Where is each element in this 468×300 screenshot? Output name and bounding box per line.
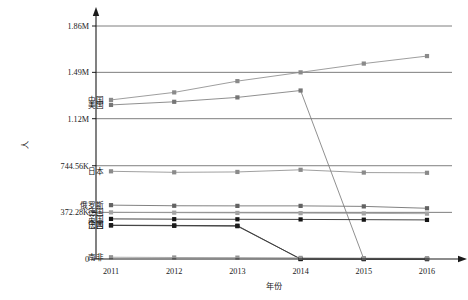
data-point [425,206,429,210]
y-tick-label: 744.56K [61,162,90,171]
data-point [109,169,113,173]
data-point [172,224,176,228]
series-line-6 [111,225,427,259]
data-point [109,210,113,214]
series-line-8 [111,257,427,258]
data-point [299,88,303,92]
data-point [235,211,239,215]
data-point [299,211,303,215]
data-point [235,95,239,99]
series-line-0 [111,56,427,100]
series-line-2 [111,170,427,173]
data-point [109,103,113,107]
data-point [299,217,303,221]
line-chart: 1.86M1.49M1.12M744.56K372.28K0 201120122… [0,0,468,300]
data-point [362,218,366,222]
data-point [109,223,113,227]
data-point [299,70,303,74]
data-point [425,171,429,175]
data-point [425,54,429,58]
data-point [425,256,429,260]
series-line-1 [111,91,427,259]
x-tick-label: 2013 [229,267,245,276]
data-series [109,54,429,261]
chart-canvas: 1.86M1.49M1.12M744.56K372.28K0 201120122… [0,0,468,300]
data-point [299,204,303,208]
x-tick-label: 2011 [103,267,119,276]
data-point [235,170,239,174]
data-point [172,100,176,104]
series-line-5 [111,219,427,220]
series-line-3 [111,205,427,208]
data-point [172,211,176,215]
x-tick-label: 2012 [166,267,182,276]
gridlines [96,26,452,212]
data-point [172,217,176,221]
data-point [235,204,239,208]
series-line-7 [111,225,427,259]
data-point [362,211,366,215]
y-axis-arrow [93,7,99,16]
x-tick-label: 2015 [356,267,372,276]
data-point [299,168,303,172]
data-point [172,170,176,174]
x-axis-arrow [458,256,467,262]
data-point [425,218,429,222]
y-tick-label: 1.86M [67,22,89,31]
data-point [425,212,429,216]
data-point [235,217,239,221]
data-point [235,79,239,83]
data-point [109,203,113,207]
data-point [109,217,113,221]
y-axis-title: 人 [21,141,30,149]
x-tick-label: 2014 [292,267,308,276]
axes [93,7,467,262]
x-axis-title: 年份 [266,281,282,291]
y-tick-label: 1.12M [67,115,89,124]
data-point [362,61,366,65]
data-point [362,170,366,174]
data-point [172,204,176,208]
data-point [172,90,176,94]
data-point [235,224,239,228]
data-point [362,204,366,208]
data-point [362,256,366,260]
data-point [109,98,113,102]
x-tick-label: 2016 [419,267,435,276]
y-tick-label: 1.49M [67,68,89,77]
x-axis-ticks: 201120122013201420152016 [103,267,435,276]
